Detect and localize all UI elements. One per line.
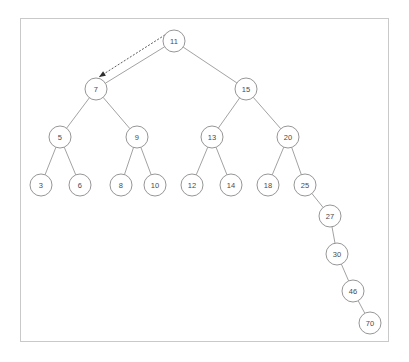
binary-search-tree-diagram: 11715591320368101214182527304670 — [0, 0, 409, 362]
tree-node-label-20: 20 — [284, 133, 293, 142]
tree-node-label-12: 12 — [188, 181, 197, 190]
tree-edge-5-6 — [64, 147, 76, 175]
tree-node-label-25: 25 — [301, 181, 310, 190]
tree-node-label-9: 9 — [135, 133, 139, 142]
tree-edge-20-18 — [272, 147, 284, 175]
tree-edge-15-13 — [218, 98, 239, 128]
tree-node-70[interactable]: 70 — [359, 312, 381, 334]
tree-node-label-8: 8 — [119, 181, 123, 190]
tree-edge-15-20 — [253, 97, 281, 128]
tree-edge-11-15 — [183, 47, 237, 83]
tree-node-6[interactable]: 6 — [69, 174, 91, 196]
tree-node-label-7: 7 — [94, 85, 98, 94]
tree-node-label-10: 10 — [151, 181, 160, 190]
tree-edge-27-30 — [332, 227, 335, 243]
tree-node-12[interactable]: 12 — [181, 174, 203, 196]
tree-node-25[interactable]: 25 — [294, 174, 316, 196]
tree-node-label-5: 5 — [58, 133, 62, 142]
tree-node-label-30: 30 — [333, 250, 342, 259]
figure-root: 11715591320368101214182527304670 — [0, 0, 409, 362]
tree-edge-9-10 — [141, 147, 151, 174]
tree-node-30[interactable]: 30 — [326, 243, 348, 265]
tree-node-label-14: 14 — [227, 181, 236, 190]
tree-node-20[interactable]: 20 — [277, 126, 299, 148]
tree-node-label-46: 46 — [349, 287, 358, 296]
tree-edge-5-3 — [45, 147, 56, 175]
tree-node-11[interactable]: 11 — [163, 30, 185, 52]
tree-node-label-3: 3 — [39, 181, 43, 190]
tree-node-14[interactable]: 14 — [220, 174, 242, 196]
tree-node-10[interactable]: 10 — [144, 174, 166, 196]
tree-node-label-6: 6 — [78, 181, 82, 190]
tree-node-5[interactable]: 5 — [49, 126, 71, 148]
tree-edge-7-5 — [67, 98, 90, 128]
tree-node-label-27: 27 — [326, 212, 335, 221]
tree-node-label-11: 11 — [170, 37, 178, 46]
tree-node-9[interactable]: 9 — [126, 126, 148, 148]
tree-edge-46-70 — [358, 301, 365, 314]
tree-node-15[interactable]: 15 — [235, 78, 257, 100]
tree-node-27[interactable]: 27 — [319, 205, 341, 227]
tree-edge-25-27 — [312, 194, 323, 208]
tree-node-8[interactable]: 8 — [110, 174, 132, 196]
tree-nodes-layer: 11715591320368101214182527304670 — [30, 30, 381, 334]
pointer-annotation-layer — [99, 33, 168, 77]
tree-node-46[interactable]: 46 — [342, 280, 364, 302]
tree-edge-13-12 — [196, 147, 208, 175]
tree-edge-30-46 — [341, 264, 348, 281]
tree-edge-7-9 — [103, 97, 130, 128]
tree-node-18[interactable]: 18 — [257, 174, 279, 196]
tree-edge-11-7 — [105, 47, 164, 83]
tree-node-7[interactable]: 7 — [85, 78, 107, 100]
pointer-11-to-7-arrowhead-icon — [99, 71, 106, 77]
tree-node-label-13: 13 — [208, 133, 217, 142]
tree-node-label-15: 15 — [242, 85, 251, 94]
pointer-11-to-7-line — [99, 33, 168, 77]
tree-edge-9-8 — [124, 147, 133, 174]
tree-node-label-18: 18 — [264, 181, 273, 190]
tree-node-3[interactable]: 3 — [30, 174, 52, 196]
tree-edge-20-25 — [292, 147, 302, 174]
tree-node-label-70: 70 — [366, 319, 375, 328]
tree-node-13[interactable]: 13 — [201, 126, 223, 148]
tree-edge-13-14 — [216, 147, 227, 175]
